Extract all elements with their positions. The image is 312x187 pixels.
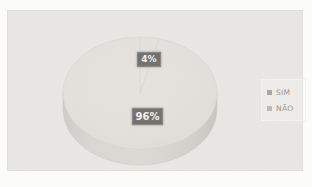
legend-item-nao: NÃO bbox=[267, 104, 305, 113]
legend-marker-nao-icon bbox=[267, 106, 272, 111]
legend-marker-sim-icon bbox=[267, 90, 272, 95]
legend-item-sim: SIM bbox=[267, 88, 305, 97]
chart-legend: SIM NÃO bbox=[261, 79, 306, 121]
data-label-nao: 96% bbox=[132, 108, 163, 125]
data-label-sim: 4% bbox=[137, 52, 161, 67]
chart-plot-area bbox=[7, 10, 303, 171]
legend-label-nao: NÃO bbox=[276, 104, 293, 113]
legend-label-sim: SIM bbox=[276, 88, 290, 97]
pie-chart-3d bbox=[8, 11, 303, 171]
scanned-chart-page: 4% 96% SIM NÃO bbox=[0, 0, 312, 187]
